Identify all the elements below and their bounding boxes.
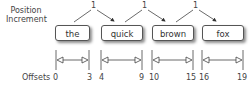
offset-fox-end: 19: [237, 73, 247, 82]
offset-the-start: 0: [53, 73, 58, 82]
token-box-brown: brown: [152, 25, 194, 41]
offset-the-end: 3: [87, 73, 92, 82]
token-box-quick: quick: [101, 25, 143, 41]
token-box-the: the: [55, 25, 90, 41]
increment-label-3: 1: [193, 1, 198, 10]
increment-label-1: 1: [91, 1, 96, 10]
offset-quick-start: 4: [99, 73, 104, 82]
increment-arrows: [74, 10, 216, 22]
increment-label-2: 1: [142, 1, 147, 10]
offset-spans: [56, 50, 243, 70]
offset-fox-start: 16: [199, 73, 209, 82]
offsets-label: Offsets: [22, 73, 50, 82]
token-box-fox: fox: [202, 25, 244, 41]
offset-brown-end: 15: [186, 73, 196, 82]
offset-quick-end: 9: [139, 73, 144, 82]
offset-brown-start: 10: [149, 73, 159, 82]
